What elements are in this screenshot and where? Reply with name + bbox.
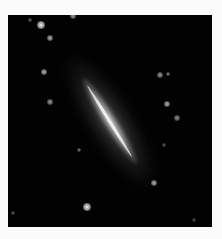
star [37,21,45,29]
star [70,15,76,19]
star [164,101,170,107]
astronomical-image [8,15,212,227]
star [174,115,180,121]
star [83,203,91,211]
star [41,69,47,75]
star [47,99,53,105]
galaxy [8,15,212,227]
star [166,72,170,76]
star [47,35,53,41]
star [28,18,32,22]
star [157,72,163,78]
star [162,143,166,147]
star [192,218,196,222]
star [151,180,157,186]
star [77,148,81,152]
star [11,211,15,215]
